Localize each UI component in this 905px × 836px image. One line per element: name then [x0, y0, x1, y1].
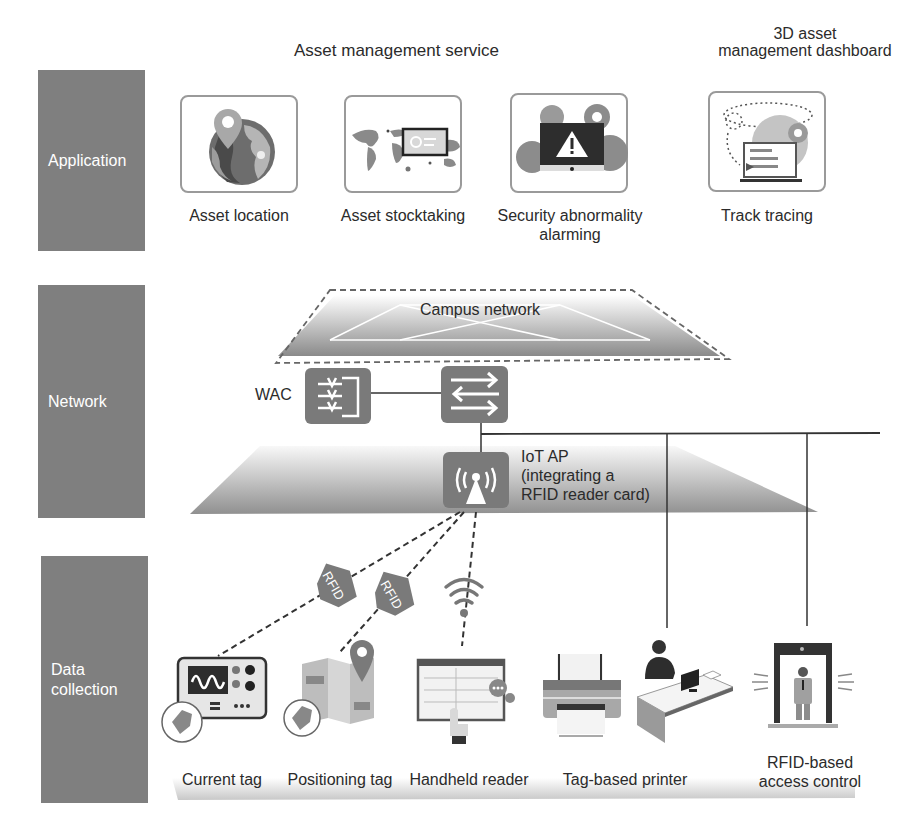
- device-label-handheld-reader: Handheld reader: [402, 771, 536, 789]
- device-label-current-tag: Current tag: [170, 771, 274, 789]
- device-label-access-control-line2: access control: [750, 773, 870, 791]
- person-desk-computer-icon[interactable]: [637, 635, 747, 745]
- wac-label: WAC: [255, 386, 292, 404]
- access-gate-icon[interactable]: [750, 640, 860, 740]
- device-label-access-control-line1: RFID-based: [750, 754, 870, 772]
- iot-ap-label-line1: IoT AP: [521, 448, 569, 466]
- handheld-reader-icon[interactable]: [410, 650, 520, 750]
- iot-ap-label-line3: RFID reader card): [521, 486, 650, 504]
- printer-icon[interactable]: [537, 650, 627, 740]
- map-pin-tag-icon[interactable]: [282, 640, 392, 730]
- iot-ap-label-line2: (integrating a: [521, 467, 614, 485]
- device-label-tag-based-printer: Tag-based printer: [550, 771, 700, 789]
- oscilloscope-tag-icon[interactable]: [160, 650, 270, 740]
- device-label-positioning-tag: Positioning tag: [275, 771, 405, 789]
- campus-network-label: Campus network: [420, 301, 540, 319]
